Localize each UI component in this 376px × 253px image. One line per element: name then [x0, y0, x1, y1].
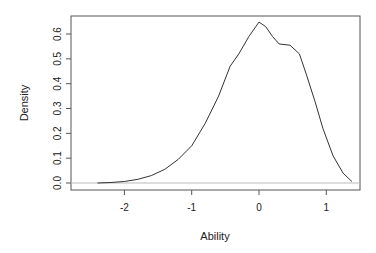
y-tick-label: 0.6: [52, 27, 63, 41]
y-tick-label: 0.5: [52, 51, 63, 65]
x-tick-label: 1: [324, 202, 330, 213]
y-tick-label: 0.2: [52, 126, 63, 140]
y-tick-label: 0.1: [52, 151, 63, 165]
x-tick-label: -2: [120, 202, 129, 213]
x-tick-label: -1: [187, 202, 196, 213]
density-chart: -2-101 0.00.10.20.30.40.50.6 Ability Den…: [0, 0, 376, 253]
y-tick-label: 0.4: [52, 76, 63, 90]
y-axis-label: Density: [18, 84, 30, 121]
x-axis-label: Ability: [200, 230, 230, 242]
x-tick-label: 0: [256, 202, 262, 213]
y-axis: 0.00.10.20.30.40.50.6: [52, 27, 72, 190]
x-axis: -2-101: [120, 190, 330, 213]
density-curve: [98, 22, 352, 183]
y-tick-label: 0.0: [52, 176, 63, 190]
y-tick-label: 0.3: [52, 101, 63, 115]
